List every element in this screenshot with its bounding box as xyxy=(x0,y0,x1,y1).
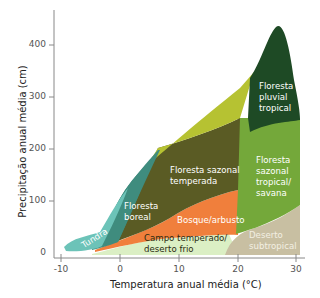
y-tick-400: 400 xyxy=(20,39,46,49)
label-sazonal-tropical-2: sazonal xyxy=(256,166,289,177)
label-campo-2: deserto frio xyxy=(144,244,194,255)
label-pluvial-tropical-1: Floresta xyxy=(259,81,293,92)
label-pluvial-tropical-2: pluvial xyxy=(259,92,287,103)
x-tick-10: 10 xyxy=(167,264,191,274)
label-pluvial-tropical-3: tropical xyxy=(259,103,291,114)
y-tick-0: 0 xyxy=(20,247,46,257)
region-floresta-pluvial-tropical xyxy=(248,26,300,132)
biome-climate-diagram: 400 300 200 100 0 -10 0 10 20 30 Tempera… xyxy=(0,0,320,298)
label-sazonal-tropical-3: tropical/ xyxy=(256,177,291,188)
label-deserto-1: Deserto xyxy=(249,230,283,241)
label-campo-1: Campo temperado/ xyxy=(144,233,227,244)
label-sazonal-temperada-1: Floresta sazonal xyxy=(170,165,240,176)
x-tick-minus10: -10 xyxy=(49,264,73,274)
x-tick-0: 0 xyxy=(108,264,132,274)
label-sazonal-tropical-1: Floresta xyxy=(256,155,290,166)
label-bosque-arbusto: Bosque/arbusto xyxy=(177,215,245,226)
x-tick-30: 30 xyxy=(284,264,308,274)
y-axis-title: Precipitação anual média (cm) xyxy=(17,62,28,222)
label-sazonal-tropical-4: savana xyxy=(256,188,287,199)
label-deserto-2: subtropical xyxy=(249,241,297,252)
x-axis-title: Temperatura anual média (°C) xyxy=(110,279,262,290)
label-sazonal-temperada-2: temperada xyxy=(170,176,217,187)
x-tick-20: 20 xyxy=(226,264,250,274)
label-boreal-1: Floresta xyxy=(124,201,158,212)
label-boreal-2: boreal xyxy=(124,212,151,223)
